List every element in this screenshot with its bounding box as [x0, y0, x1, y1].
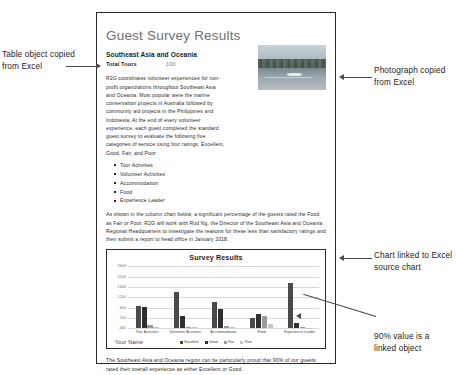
- chart-bar-groups: Tour ActivitiesVolunteer ActivitiesAccom…: [128, 266, 319, 328]
- chart-bar: [300, 327, 305, 328]
- chart-legend-label: Excellent: [184, 340, 198, 344]
- chart-y-tick-label: -400: [118, 326, 126, 330]
- chart-bar: [250, 318, 255, 328]
- chart-y-tick-label: 100: [120, 316, 126, 320]
- chart-title: Survey Results: [107, 250, 325, 261]
- chart-y-tick-label: 600: [120, 306, 126, 310]
- document-page: Guest Survey Results Southeast Asia and …: [96, 12, 336, 364]
- chart-legend-label: Fair: [228, 340, 234, 344]
- chart-plot-area: 2600210016001100600100-400 Tour Activiti…: [128, 266, 319, 328]
- chart-legend-item: Good: [205, 340, 218, 344]
- chart-bar: [136, 306, 141, 329]
- chart-bar-group: Tour Activities: [136, 266, 159, 328]
- chart-legend-item: Fair: [224, 340, 235, 344]
- callout-photo-arrow-icon: [339, 74, 344, 80]
- chart-y-tick-label: 1100: [118, 295, 126, 299]
- chart-bar: [147, 325, 152, 328]
- list-item: Food: [120, 188, 326, 197]
- callout-table-arrow-icon: [96, 63, 101, 69]
- list-item: Volunteer Activities: [120, 170, 326, 179]
- chart-bar: [262, 316, 267, 329]
- list-item: Accommodation: [120, 179, 326, 188]
- chart-bar: [306, 328, 311, 329]
- chart-bar: [180, 316, 185, 328]
- callout-chart-arrow-icon: [339, 255, 344, 261]
- chart-bar: [288, 283, 293, 328]
- chart-legend-item: Excellent: [180, 340, 199, 344]
- table-row: Total Tours 100: [106, 61, 224, 68]
- chart-category-label: Food: [257, 330, 265, 334]
- chart-bar-group: Accommodation: [212, 266, 235, 328]
- table-cell-label: Total Tours: [106, 61, 166, 68]
- chart-legend-swatch: [205, 341, 208, 344]
- chart-bar: [142, 307, 147, 329]
- table-cell-value: 100: [166, 61, 176, 68]
- chart-legend-label: Good: [209, 340, 218, 344]
- document-content: Guest Survey Results Southeast Asia and …: [106, 29, 326, 359]
- photograph-object[interactable]: [258, 45, 326, 90]
- bullet-list: Tour Activities Volunteer Activities Acc…: [106, 161, 326, 206]
- table-heading: Southeast Asia and Oceania: [106, 51, 224, 61]
- chart-bar-group: Food: [250, 266, 273, 328]
- photo-water-streak: [265, 77, 313, 78]
- chart-legend-swatch: [180, 341, 183, 344]
- body-paragraph-3: The Southeast Asia and Oceania region ca…: [106, 356, 326, 373]
- chart-legend-item: Poor: [240, 340, 252, 344]
- chart-bar: [153, 327, 158, 329]
- photo-treeline: [258, 59, 326, 68]
- body-paragraph-2: As shown in the column chart below, a si…: [106, 210, 326, 243]
- photo-boat: [287, 73, 302, 75]
- list-item: Tour Activities: [120, 161, 326, 170]
- chart-bar: [230, 327, 235, 329]
- chart-bar: [192, 327, 197, 328]
- callout-table-leader-line: [66, 66, 96, 67]
- chart-gridline: -400: [128, 328, 319, 329]
- chart-object[interactable]: Survey Results 2600210016001100600100-40…: [106, 249, 326, 349]
- chart-bar: [186, 327, 191, 329]
- chart-bar-group: Experience Leader: [288, 266, 311, 328]
- chart-y-tick-label: 2100: [118, 275, 126, 279]
- callout-value-arrow-icon: [296, 313, 301, 319]
- body-paragraph-1-wrap: R2G coordinates volunteer experiences fo…: [106, 74, 226, 157]
- chart-bar-group: Volunteer Activities: [174, 266, 197, 328]
- callout-photo-leader-line: [344, 77, 372, 78]
- chart-bar: [294, 323, 299, 328]
- callout-linked-value: 90% value is a linked object: [374, 330, 454, 354]
- photo-water: [258, 68, 326, 91]
- chart-y-tick-label: 1600: [118, 285, 126, 289]
- callout-table-object: Table object copied from Excel: [2, 48, 88, 72]
- chart-bar: [268, 324, 273, 329]
- callout-chart-leader-line: [344, 258, 372, 259]
- chart-bar: [224, 326, 229, 329]
- chart-legend-swatch: [224, 341, 227, 344]
- chart-category-label: Experience Leader: [284, 330, 315, 334]
- footer-name: Your Name: [115, 339, 143, 345]
- table-object[interactable]: Southeast Asia and Oceania Total Tours 1…: [106, 51, 224, 69]
- chart-legend-swatch: [240, 341, 243, 344]
- chart-y-tick-label: 2600: [118, 264, 126, 268]
- callout-chart-link: Chart linked to Excel source chart: [374, 249, 456, 273]
- chart-bar: [218, 309, 223, 329]
- chart-bar: [212, 302, 217, 329]
- chart-bar: [256, 314, 261, 328]
- chart-category-label: Volunteer Activities: [170, 330, 201, 334]
- chart-category-label: Tour Activities: [136, 330, 159, 334]
- chart-bar: [174, 292, 179, 328]
- chart-legend-label: Poor: [245, 340, 252, 344]
- callout-photograph: Photograph copied from Excel: [374, 64, 454, 88]
- chart-category-label: Accommodation: [210, 330, 236, 334]
- list-item: Experience Leader: [120, 196, 326, 205]
- page-title: Guest Survey Results: [106, 29, 326, 44]
